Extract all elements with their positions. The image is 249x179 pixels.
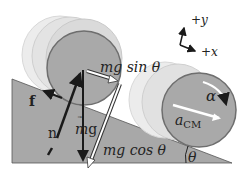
friction-label: f <box>29 93 36 109</box>
coordinate-axes: +y +x <box>180 13 218 59</box>
cylinder-face <box>162 73 236 147</box>
mg-cos-label: mg cos θ <box>103 142 167 158</box>
incline-diagram: α aCM θ mg sin θ mg cos θ mg ⃗ n f +y +x <box>0 0 249 179</box>
theta-label: θ <box>188 149 197 165</box>
gravity-label: mg <box>75 121 97 137</box>
normal-label: n <box>48 125 57 141</box>
alpha-label: α <box>206 87 216 105</box>
mg-sin-label: mg sin θ <box>100 59 161 75</box>
x-axis-label: +x <box>201 45 218 59</box>
y-axis-label: +y <box>191 13 208 27</box>
diagram-canvas: α aCM θ mg sin θ mg cos θ mg ⃗ n f +y +x <box>0 0 249 179</box>
